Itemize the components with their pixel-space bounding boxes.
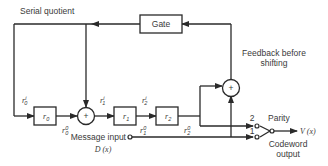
switch-position-2: 2 — [250, 113, 255, 123]
serial-quotient-label: Serial quotient — [20, 6, 75, 16]
switch-terminal-2 — [255, 124, 259, 128]
r1-out-label: r01 — [140, 125, 147, 136]
gate-label: Gate — [152, 19, 171, 29]
message-symbol: D (x) — [94, 145, 112, 154]
r1-in-label: ri1 — [100, 95, 105, 106]
message-input-terminal — [128, 135, 132, 139]
switch-position-1: 1 — [250, 126, 255, 136]
switch-arm-2 — [260, 126, 270, 131]
switch-pivot — [270, 129, 274, 133]
message-input-label: Message input — [71, 132, 127, 142]
parity-label: Parity — [268, 113, 290, 123]
r0-out-label: r00 — [62, 125, 69, 136]
codeword-label-line1: Codeword — [269, 139, 308, 149]
xor-left-symbol: + — [84, 111, 89, 121]
r0-in-label: ri0 — [22, 95, 28, 106]
r2-in-label: ri2 — [142, 95, 147, 106]
output-symbol: V (x) — [300, 127, 316, 136]
r2-out-label: r02 — [184, 125, 191, 136]
xor-right-symbol: + — [229, 83, 234, 93]
feedback-label-line1: Feedback before — [242, 48, 306, 58]
feedback-label-line2: shifting — [261, 58, 288, 68]
switch-arm-1 — [260, 131, 270, 137]
encoder-diagram: Gate r0 r1 r2 + + ri0 r00 ri1 r01 ri2 r0… — [0, 0, 328, 166]
switch-terminal-1 — [255, 135, 259, 139]
codeword-label-line2: output — [276, 149, 300, 159]
